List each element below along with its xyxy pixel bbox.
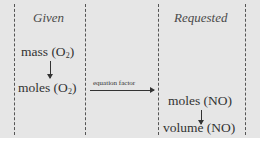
requested-right-divider [245, 4, 246, 135]
node-volume-no: volume (NO) [163, 120, 235, 136]
requested-header: Requested [174, 10, 227, 26]
given-header: Given [33, 10, 64, 26]
arrow-mass-to-moles [50, 61, 51, 78]
given-right-divider [85, 4, 86, 135]
node-moles-o2: moles (O2) [18, 80, 76, 96]
node-mass-o2: mass (O2) [21, 44, 74, 60]
diagram-panel: Given Requested mass (O2) moles (O2) equ… [0, 0, 260, 138]
arrow-equation-factor [90, 90, 154, 91]
equation-factor-label: equation factor [93, 79, 135, 87]
given-left-divider [14, 4, 15, 135]
node-moles-no: moles (NO) [168, 93, 232, 109]
requested-left-divider [158, 4, 159, 135]
